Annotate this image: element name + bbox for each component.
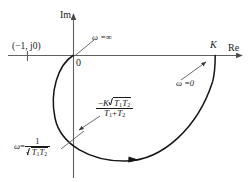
sqrt-radical-icon-2: T1T2 [27, 147, 48, 159]
omega-zero-label: ω =0 [176, 79, 194, 88]
omega-resonance-fraction: 1 T1T2 [25, 137, 50, 158]
sqrt-radical-icon: T1T2 [109, 97, 131, 108]
peak-magnitude-denominator: T1+T2 [96, 109, 133, 118]
real-axis-label: Re [228, 43, 239, 53]
omega-resonance-denominator: T1T2 [25, 147, 50, 159]
t2-subscript-res: 2 [44, 151, 47, 157]
radicand-2: T1T2 [31, 147, 48, 159]
nyquist-plot-figure: Im Re 0 (−1, j0) K ω =∞ ω =0 −KT1T2 T1+T… [0, 0, 249, 182]
t2-subscript: 2 [127, 102, 130, 108]
critical-point-label: (−1, j0) [12, 42, 41, 52]
peak-magnitude-label: −KT1T2 T1+T2 [96, 97, 133, 118]
radicand: T1T2 [113, 97, 131, 108]
omega-infinity-label: ω =∞ [92, 33, 112, 42]
peak-magnitude-numerator: −KT1T2 [96, 97, 133, 109]
origin-label: 0 [76, 58, 81, 68]
peak-magnitude-fraction: −KT1T2 T1+T2 [96, 97, 133, 118]
omega-resonance-numerator: 1 [25, 137, 50, 147]
direction-arrowhead [128, 157, 139, 163]
omega-resonance-label: ω= 1 T1T2 [14, 137, 50, 158]
gain-k-label: K [210, 40, 217, 50]
t2-subscript-den: 2 [122, 112, 125, 118]
nyquist-locus [53, 56, 215, 162]
omega-resonance-leader [61, 131, 84, 149]
imaginary-axis-label: Im [60, 10, 71, 20]
omega-infinity-leader [75, 40, 95, 56]
